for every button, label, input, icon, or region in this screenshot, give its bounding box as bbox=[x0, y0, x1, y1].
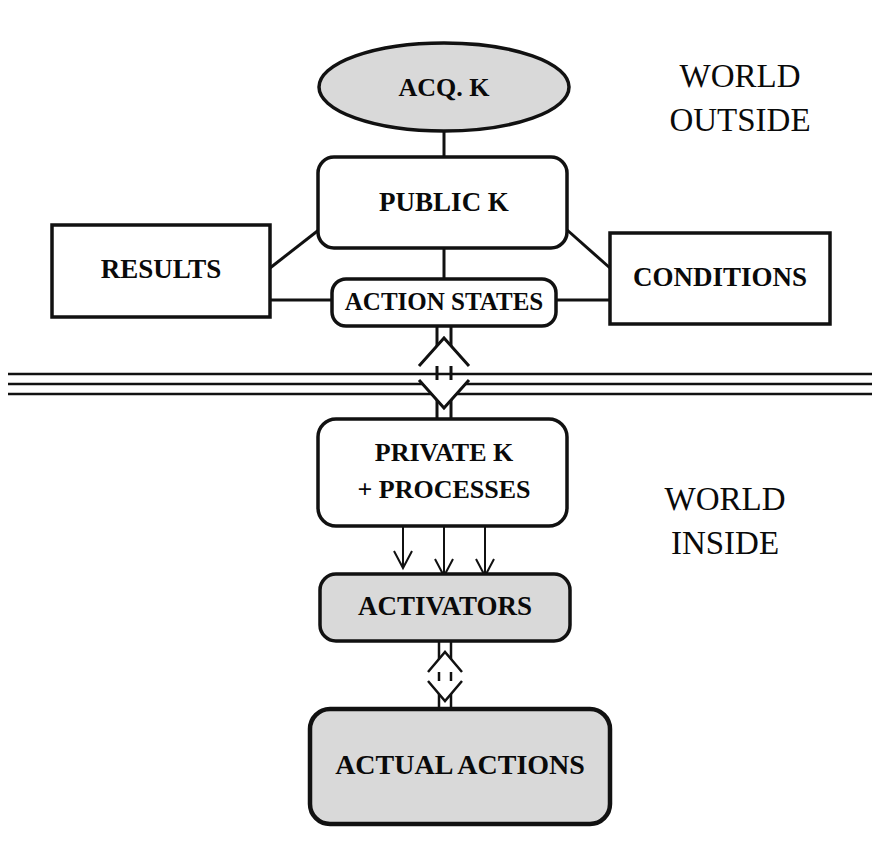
region-label-world-inside: WORLD INSIDE bbox=[665, 481, 786, 561]
private-k-rect-shape bbox=[318, 419, 567, 526]
node-acq-k[interactable]: ACQ. K bbox=[319, 43, 569, 131]
knowledge-action-diagram: ACQ. K PUBLIC K RESULTS CONDITIONS ACTIO… bbox=[0, 0, 879, 858]
connector-activators-to-actualactions bbox=[428, 640, 462, 712]
node-actual-actions[interactable]: ACTUAL ACTIONS bbox=[310, 709, 610, 824]
connector-conditions-to-publick bbox=[566, 229, 610, 268]
node-action-states[interactable]: ACTION STATES bbox=[332, 279, 556, 326]
world-outside-line1: WORLD bbox=[680, 58, 801, 94]
acq-k-label: ACQ. K bbox=[399, 73, 491, 102]
actual-actions-label: ACTUAL ACTIONS bbox=[335, 749, 585, 780]
world-inside-line2: INSIDE bbox=[671, 525, 779, 561]
node-private-k[interactable]: PRIVATE K + PROCESSES bbox=[318, 419, 567, 526]
action-states-label: ACTION STATES bbox=[345, 288, 543, 315]
lower-double-arrow-head-down bbox=[428, 681, 462, 701]
double-arrow-head-up bbox=[419, 338, 469, 366]
lower-double-arrow-head-up bbox=[428, 652, 462, 672]
connector-results-to-publick bbox=[270, 229, 320, 268]
diagram-canvas: ACQ. K PUBLIC K RESULTS CONDITIONS ACTIO… bbox=[0, 0, 879, 858]
public-k-label: PUBLIC K bbox=[379, 187, 509, 217]
private-k-label-line1: PRIVATE K bbox=[375, 438, 514, 467]
node-conditions[interactable]: CONDITIONS bbox=[610, 233, 830, 324]
activators-label: ACTIVATORS bbox=[358, 591, 532, 621]
region-label-world-outside: WORLD OUTSIDE bbox=[669, 58, 810, 138]
private-k-label-line2: + PROCESSES bbox=[357, 475, 530, 504]
node-public-k[interactable]: PUBLIC K bbox=[318, 157, 567, 248]
connector-privatek-to-activators bbox=[394, 525, 494, 576]
connector-actionstates-to-privatek bbox=[419, 324, 469, 420]
conditions-label: CONDITIONS bbox=[633, 262, 807, 292]
node-activators[interactable]: ACTIVATORS bbox=[320, 574, 570, 641]
world-outside-line2: OUTSIDE bbox=[669, 102, 810, 138]
world-inside-line1: WORLD bbox=[665, 481, 786, 517]
node-results[interactable]: RESULTS bbox=[52, 225, 270, 317]
results-label: RESULTS bbox=[101, 254, 222, 284]
